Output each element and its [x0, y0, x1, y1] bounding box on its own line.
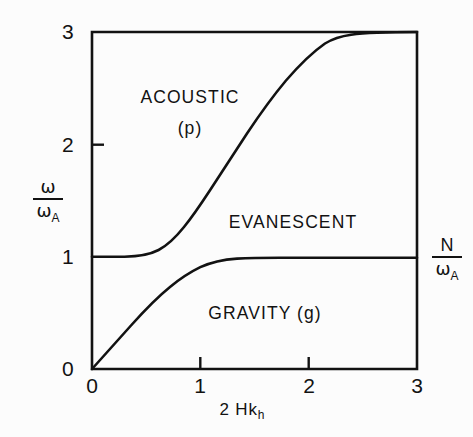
x-axis-title-subscript: h	[258, 408, 265, 422]
x-tick-label-3: 3	[411, 374, 423, 398]
x-axis-title-text: 2 Hk	[220, 400, 258, 419]
y-tick-label-0: 0	[62, 357, 74, 381]
y-tick-label-3: 3	[62, 20, 74, 44]
buoyancy-label-numerator: N	[439, 236, 456, 256]
figure-container: 3 2 1 0 0 1 2 3 ω ωA 2 Hkh N ωA ACOUSTIC…	[0, 0, 473, 437]
x-axis-ticks	[200, 357, 308, 369]
buoyancy-label-denominator: ωA	[433, 258, 460, 282]
region-label-evanescent: EVANESCENT	[229, 212, 357, 233]
y-tick-label-2: 2	[62, 133, 74, 157]
region-label-gravity: GRAVITY (g)	[208, 303, 322, 324]
x-tick-label-0: 0	[86, 374, 98, 398]
region-label-acoustic: ACOUSTIC	[140, 87, 239, 108]
y-axis-title: ω ωA	[33, 178, 63, 223]
region-label-acoustic-mode: (p)	[178, 118, 203, 139]
buoyancy-frequency-label: N ωA	[432, 236, 462, 281]
x-axis-title: 2 Hkh	[220, 400, 265, 422]
y-axis-title-numerator: ω	[38, 178, 57, 198]
x-tick-label-2: 2	[303, 374, 315, 398]
y-tick-label-1: 1	[62, 245, 74, 269]
x-tick-label-1: 1	[194, 374, 206, 398]
y-axis-title-denominator: ωA	[34, 200, 61, 224]
